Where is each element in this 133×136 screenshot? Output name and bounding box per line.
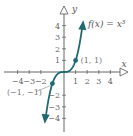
- function-label: f(x) = x³: [87, 19, 126, 29]
- y-axis-arrow-icon: [60, 6, 68, 14]
- y-axis-label: y: [71, 4, 78, 14]
- x-tick-label: 4: [108, 77, 113, 86]
- x-axis-arrow-icon: [120, 68, 128, 76]
- y-tick-label: 4: [55, 22, 60, 31]
- y-tick-label: 3: [55, 33, 60, 42]
- y-tick-label: −4: [48, 114, 60, 123]
- point-label-neg1-neg1: (−1, −1): [7, 88, 42, 97]
- x-axis-label: x: [121, 59, 126, 69]
- x-tick-label: −2: [35, 77, 47, 86]
- y-tick-label: −3: [48, 103, 60, 112]
- x-tick-label: 1: [73, 77, 78, 86]
- y-tick-label: 1: [55, 56, 60, 65]
- x-tick-label: 2: [85, 77, 90, 86]
- y-tick-label: 2: [55, 45, 60, 54]
- data-point: [50, 81, 55, 86]
- cubic-function-graph: xy−4−3−212344321−2−3−4(1, 1)(−1, −1)f(x)…: [0, 0, 133, 136]
- point-label-1-1: (1, 1): [81, 56, 103, 65]
- x-tick-label: −3: [23, 77, 35, 86]
- data-point: [73, 58, 78, 63]
- x-tick-label: −4: [12, 77, 24, 86]
- x-tick-label: 3: [96, 77, 101, 86]
- curve-arrow-up-icon: [78, 20, 86, 30]
